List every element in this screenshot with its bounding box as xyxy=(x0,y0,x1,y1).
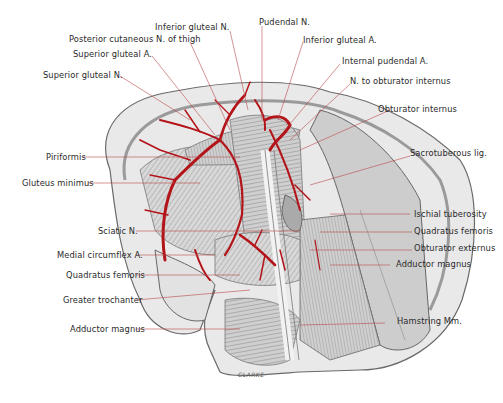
label-superior-gluteal-a: Superior gluteal A. xyxy=(73,49,152,59)
label-inferior-gluteal-a: Inferior gluteal A. xyxy=(303,35,377,45)
label-medial-circumflex-a: Medial circumflex A. xyxy=(57,250,143,260)
label-pudendal-n: Pudendal N. xyxy=(259,17,310,27)
label-obturator-internus: Obturator internus xyxy=(378,104,457,114)
anatomy-figure: Inferior gluteal N. Pudendal N. Posterio… xyxy=(0,0,503,403)
artist-signature: CLARKE xyxy=(238,371,265,378)
label-ischial-tuberosity: Ischial tuberosity xyxy=(414,209,487,219)
label-hamstring-mm: Hamstring Mm. xyxy=(397,316,462,326)
label-inferior-gluteal-n: Inferior gluteal N. xyxy=(155,22,230,32)
label-piriformis: Piriformis xyxy=(46,152,86,162)
label-sacrotuberous-lig: Sacrotuberous lig. xyxy=(410,148,487,158)
label-adductor-magnus-left: Adductor magnus xyxy=(70,324,145,334)
label-adductor-magnus-right: Adductor magnus xyxy=(396,259,471,269)
label-internal-pudendal-a: Internal pudendal A. xyxy=(342,56,428,66)
label-obturator-externus: Obturator externus xyxy=(414,243,495,253)
label-greater-trochanter: Greater trochanter xyxy=(63,295,143,305)
label-n-obturator-internus: N. to obturator internus xyxy=(350,76,451,86)
label-quadratus-femoris-right: Quadratus femoris xyxy=(414,226,493,236)
label-gluteus-minimus: Gluteus minimus xyxy=(22,178,94,188)
label-posterior-cutaneous-n: Posterior cutaneous N. of thigh xyxy=(69,34,201,44)
label-superior-gluteal-n: Superior gluteal N. xyxy=(43,70,123,80)
label-quadratus-femoris-left: Quadratus femoris xyxy=(66,270,145,280)
label-sciatic-n: Sciatic N. xyxy=(98,226,138,236)
